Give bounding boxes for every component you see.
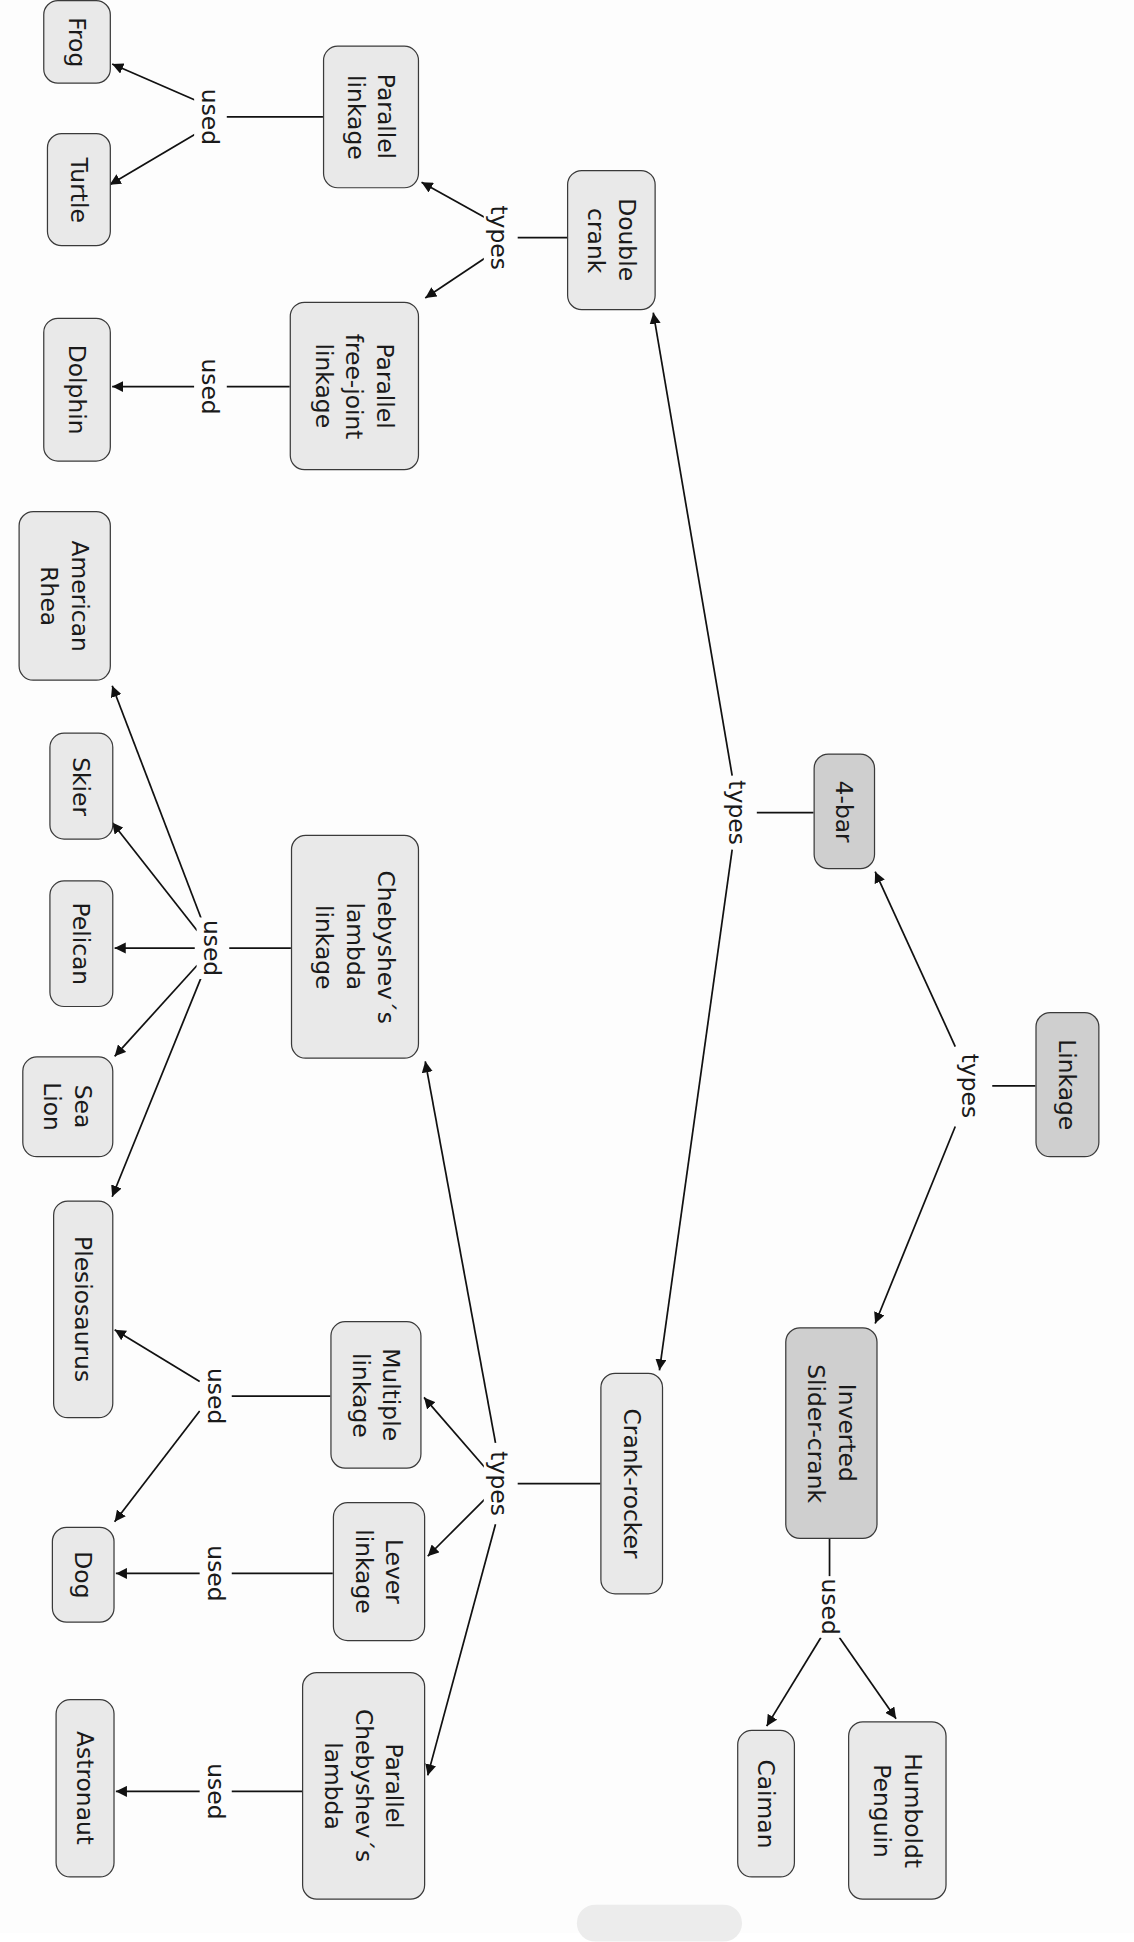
node-parallel-linkage[interactable]: Parallel linkage	[323, 46, 419, 189]
node-label: Multiple linkage	[345, 1348, 407, 1441]
edge-arrow	[424, 1397, 488, 1471]
edge-arrow	[425, 1061, 495, 1443]
node-turtle[interactable]: Turtle	[47, 133, 111, 246]
edge-arrow	[659, 850, 732, 1371]
node-crank-rocker[interactable]: Crank-rocker	[600, 1373, 663, 1595]
edge-arrow	[422, 182, 489, 219]
node-parallel-free-joint-linkage[interactable]: Parallel free-joint linkage	[290, 302, 419, 471]
node-pelican[interactable]: Pelican	[49, 880, 113, 1007]
node-label: Inverted Slider-crank	[801, 1364, 863, 1503]
node-four-bar[interactable]: 4-bar	[814, 753, 876, 869]
edge-arrow	[653, 313, 732, 776]
node-label: Dolphin	[62, 345, 93, 435]
node-label: Crank-rocker	[616, 1409, 647, 1559]
node-dolphin[interactable]: Dolphin	[43, 318, 111, 462]
link-label-used: used	[200, 1366, 231, 1427]
node-label: Double crank	[581, 199, 643, 282]
link-label-used: used	[197, 917, 228, 978]
node-plesiosaurus[interactable]: Plesiosaurus	[53, 1200, 113, 1418]
link-label-types: types	[484, 203, 515, 272]
node-dog[interactable]: Dog	[52, 1527, 115, 1623]
node-frog[interactable]: Frog	[43, 0, 111, 84]
link-label-used: used	[200, 1543, 231, 1604]
node-double-crank[interactable]: Double crank	[567, 170, 656, 310]
link-label-used: used	[814, 1576, 845, 1637]
faint-watermark-shape	[577, 1905, 742, 1942]
edge-arrow	[428, 1496, 488, 1556]
edge-arrow	[115, 965, 198, 1056]
node-label: Plesiosaurus	[68, 1236, 99, 1382]
node-label: Dog	[68, 1551, 99, 1598]
node-astronaut[interactable]: Astronaut	[55, 1699, 114, 1878]
node-humboldt-penguin[interactable]: Humboldt Penguin	[848, 1721, 947, 1900]
node-label: 4-bar	[829, 780, 860, 842]
node-label: Parallel Chebyshev´s lambda	[317, 1709, 409, 1862]
node-label: Parallel linkage	[340, 74, 402, 159]
node-label: Lever linkage	[348, 1529, 410, 1614]
node-american-rhea[interactable]: American Rhea	[18, 511, 110, 681]
node-label: Pelican	[66, 902, 97, 985]
edge-arrow	[115, 1330, 200, 1382]
node-label: Chebyshev´s lambda linkage	[309, 870, 401, 1023]
node-label: Turtle	[63, 157, 94, 222]
node-label: Parallel free-joint linkage	[308, 333, 400, 439]
edge-arrow	[425, 256, 488, 298]
node-chebyshev-lambda-linkage[interactable]: Chebyshev´s lambda linkage	[291, 835, 419, 1059]
node-skier[interactable]: Skier	[49, 733, 113, 840]
node-linkage[interactable]: Linkage	[1035, 1012, 1099, 1157]
node-lever-linkage[interactable]: Lever linkage	[333, 1502, 425, 1641]
node-multiple-linkage[interactable]: Multiple linkage	[330, 1321, 421, 1469]
node-label: Sea Lion	[37, 1083, 99, 1132]
edge-arrow	[767, 1637, 821, 1726]
node-label: Skier	[66, 757, 97, 816]
edge-arrow	[110, 133, 198, 185]
link-label-used: used	[200, 1761, 231, 1822]
edge-arrow	[875, 1127, 955, 1324]
link-label-used: used	[194, 86, 225, 147]
edge-arrow	[839, 1637, 896, 1718]
node-label: Linkage	[1052, 1039, 1083, 1130]
node-label: Astronaut	[70, 1731, 101, 1845]
edge-arrow	[428, 1524, 496, 1775]
node-caiman[interactable]: Caiman	[737, 1730, 795, 1878]
edges	[110, 64, 1036, 1791]
link-label-types: types	[484, 1449, 515, 1518]
node-parallel-chebyshev-lambda[interactable]: Parallel Chebyshev´s lambda	[302, 1672, 425, 1900]
link-label-types: types	[722, 778, 753, 847]
node-sea-lion[interactable]: Sea Lion	[22, 1056, 113, 1157]
edge-arrow	[875, 872, 955, 1047]
node-label: Humboldt Penguin	[867, 1753, 929, 1868]
edge-arrow	[112, 686, 202, 921]
edge-arrow	[112, 64, 197, 101]
node-label: American Rhea	[34, 540, 96, 651]
edge-arrow	[115, 1411, 200, 1522]
link-label-used: used	[194, 356, 225, 417]
node-inverted-slider-crank[interactable]: Inverted Slider-crank	[785, 1327, 877, 1539]
link-label-types: types	[955, 1051, 986, 1120]
node-label: Caiman	[751, 1759, 782, 1848]
node-label: Frog	[62, 17, 93, 67]
